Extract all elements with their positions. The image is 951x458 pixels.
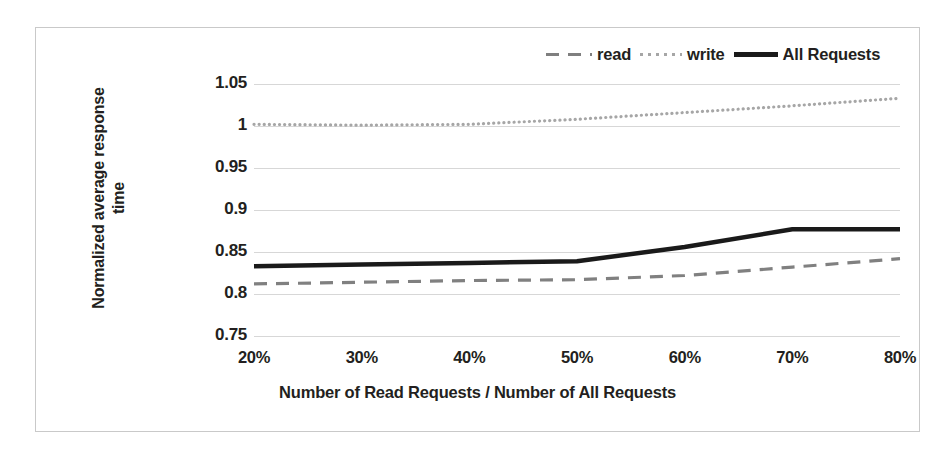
y-axis-tick-label: 1 — [137, 115, 247, 135]
legend-label-write: write — [687, 45, 725, 64]
dashed-line-swatch — [546, 48, 592, 60]
legend-item-all-requests: All Requests — [734, 45, 890, 64]
x-axis-tick-label: 80% — [860, 348, 940, 367]
x-axis-title: Number of Read Requests / Number of All … — [36, 383, 919, 402]
data-series-layer — [254, 84, 900, 336]
series-line-all-requests — [254, 229, 900, 266]
y-axis-title-line2: time — [110, 182, 127, 214]
x-axis-tick-label: 70% — [752, 348, 832, 367]
y-axis-tick-label: 1.05 — [137, 73, 247, 93]
solid-line-swatch — [734, 48, 778, 60]
legend-label-all-requests: All Requests — [783, 45, 881, 64]
y-axis-tick-label: 0.8 — [137, 283, 247, 303]
dotted-line-swatch — [640, 48, 682, 60]
chart-figure: read write All Requests Normalized avera… — [35, 27, 920, 432]
y-axis-tick-label: 0.85 — [137, 241, 247, 261]
legend-label-read: read — [597, 45, 631, 64]
x-axis-tick-label: 40% — [429, 348, 509, 367]
gridline — [254, 336, 900, 337]
legend-item-write: write — [640, 45, 734, 64]
y-axis-title-line1: Normalized average response — [90, 87, 107, 308]
y-axis-title: Normalized average response time — [89, 73, 129, 323]
y-axis-tick-label: 0.95 — [137, 157, 247, 177]
chart-legend: read write All Requests — [546, 42, 889, 66]
x-axis-tick-label: 30% — [322, 348, 402, 367]
x-axis-tick-label: 60% — [645, 348, 725, 367]
legend-item-read: read — [546, 45, 640, 64]
y-axis-tick-label: 0.9 — [137, 199, 247, 219]
series-line-write — [254, 98, 900, 125]
y-axis-tick-label: 0.75 — [137, 325, 247, 345]
plot-area: 0.750.80.850.90.9511.05 20%30%40%50%60%7… — [254, 84, 900, 336]
x-axis-tick-label: 20% — [214, 348, 294, 367]
x-axis-tick-label: 50% — [537, 348, 617, 367]
